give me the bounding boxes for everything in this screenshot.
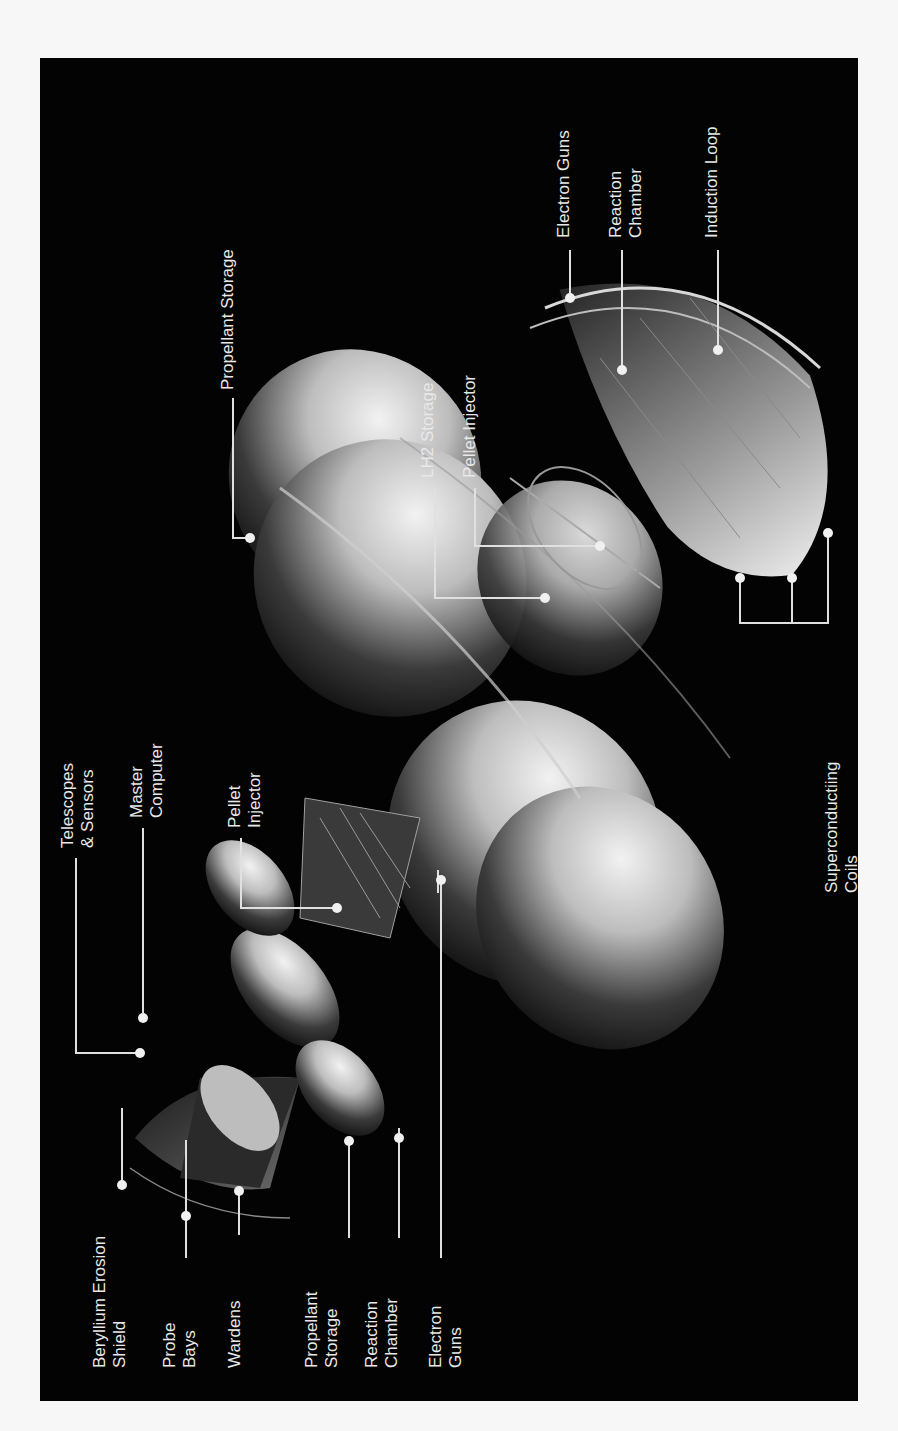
- label-reaction-chamber-front: Reaction Chamber: [362, 1298, 402, 1368]
- label-pellet-injector-front: Pellet Injector: [225, 772, 265, 828]
- label-beryllium-erosion-shield: Beryllium Erosion Shield: [90, 1236, 130, 1368]
- label-superconducting-coils: Superconductiing Coils: [822, 762, 858, 893]
- front-module: [130, 798, 420, 1218]
- diagram-panel: Beryllium Erosion Shield Probe Bays Ward…: [40, 58, 858, 1401]
- label-wardens: Wardens: [225, 1301, 245, 1368]
- label-propellant-storage-front: Propellant Storage: [302, 1291, 342, 1368]
- label-electron-guns-main: Electron Guns: [554, 130, 574, 238]
- spacecraft-illustration: [40, 58, 858, 1401]
- label-induction-loop: Induction Loop: [702, 126, 722, 238]
- label-propellant-storage-main: Propellant Storage: [218, 249, 238, 390]
- label-master-computer: Master Computer: [127, 743, 167, 818]
- label-telescopes-sensors: Telescopes & Sensors: [58, 763, 98, 848]
- label-reaction-chamber-main: Reaction Chamber: [606, 168, 646, 238]
- label-lh2-storage: LH2 Storage: [418, 383, 438, 478]
- label-probe-bays: Probe Bays: [160, 1323, 200, 1368]
- label-pellet-injector-main: Pellet Injector: [460, 375, 480, 478]
- label-electron-guns-front: Electron Guns: [426, 1306, 466, 1368]
